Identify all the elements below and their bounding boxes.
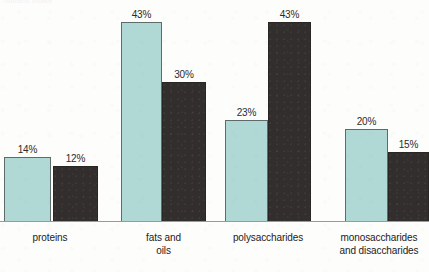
bar-proteins-light[interactable] [4,157,51,222]
bar-group-proteins: 14% 12% [4,1,96,222]
bar-group-fats-and-oils: 43% 30% [121,1,206,222]
category-label-monosaccharides: monosaccharides and disaccharides [329,232,429,257]
bar-fats-dark[interactable] [162,82,206,222]
bar-mono-dark[interactable] [388,152,429,222]
category-label-proteins: proteins [4,232,96,245]
value-label-fats-light: 43% [121,9,162,20]
bar-chart-plot-area: 14% 12% 43% 30% 23% [0,0,429,223]
bar-poly-light[interactable] [225,120,268,222]
chart-page: nutrient intake 14% 12% 43% 30% [0,0,429,272]
bar-poly-dark[interactable] [268,22,311,222]
bar-group-monosaccharides: 20% 15% [345,1,429,222]
value-label-fats-dark: 30% [162,69,206,80]
category-label-fats-and-oils: fats and oils [121,232,206,257]
value-label-proteins-dark: 12% [53,153,98,164]
category-label-polysaccharides: polysaccharides [218,232,318,245]
value-label-mono-dark: 15% [388,139,429,150]
value-label-mono-light: 20% [345,116,388,127]
bar-mono-light[interactable] [345,129,388,222]
bar-group-polysaccharides: 23% 43% [225,1,311,222]
axis-baseline [0,221,429,222]
bar-fats-light[interactable] [121,22,162,222]
bar-proteins-dark[interactable] [53,166,98,222]
value-label-poly-light: 23% [225,107,268,118]
value-label-poly-dark: 43% [268,9,311,20]
value-label-proteins-light: 14% [4,144,51,155]
